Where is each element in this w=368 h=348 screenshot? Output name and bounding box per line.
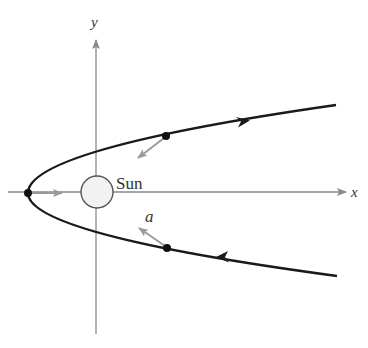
orbit-direction-arrow-lower: [216, 251, 229, 263]
acceleration-label: a: [145, 207, 154, 226]
y-axis-label: y: [89, 14, 98, 30]
orbit-point-vertex: [24, 189, 32, 197]
orbit-point-lower: [163, 244, 171, 252]
orbit-upper-branch: [28, 105, 336, 193]
orbit-point-upper: [162, 132, 170, 140]
orbit-diagram: x y Sun a: [0, 0, 368, 348]
acceleration-vector-upper: [138, 138, 164, 158]
x-axis-label: x: [350, 184, 358, 200]
sun-label: Sun: [116, 174, 143, 193]
sun-icon: [81, 176, 113, 208]
orbit-lower-branch: [28, 193, 337, 276]
